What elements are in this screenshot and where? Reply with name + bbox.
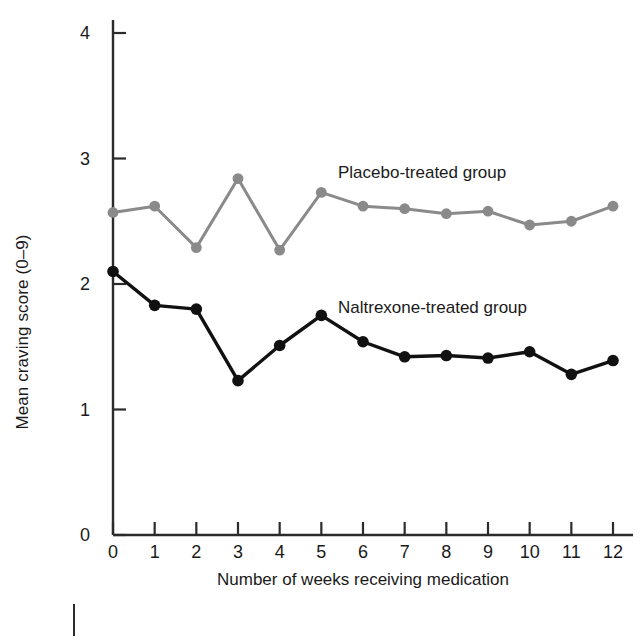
x-tick-label: 9 <box>471 543 505 561</box>
data-point <box>149 201 160 212</box>
data-point <box>232 375 244 387</box>
x-tick-label: 3 <box>221 543 255 561</box>
data-point <box>483 206 494 217</box>
y-axis-ticks <box>113 33 126 535</box>
x-tick-label: 5 <box>304 543 338 561</box>
x-tick-label: 1 <box>138 543 172 561</box>
data-point <box>357 336 369 348</box>
data-point <box>107 266 119 278</box>
data-point <box>441 350 453 362</box>
y-tick-label: 0 <box>62 526 90 544</box>
annotation-placebo-treated-group: Placebo-treated group <box>338 163 506 183</box>
data-point <box>191 303 203 315</box>
series-placebo-treated-group <box>108 173 619 255</box>
data-point <box>399 203 410 214</box>
data-point <box>607 355 619 367</box>
x-tick-label: 6 <box>346 543 380 561</box>
x-tick-label: 11 <box>554 543 588 561</box>
y-tick-label: 3 <box>62 150 90 168</box>
x-tick-label: 0 <box>96 543 130 561</box>
data-point <box>524 220 535 231</box>
series-naltrexone-treated-group <box>107 266 619 387</box>
annotation-naltrexone-treated-group: Naltrexone-treated group <box>338 298 527 318</box>
page-corner-mark <box>73 604 75 636</box>
data-point <box>316 187 327 198</box>
data-point <box>108 207 119 218</box>
x-tick-label: 7 <box>388 543 422 561</box>
x-axis-ticks <box>113 522 613 535</box>
data-point <box>274 340 286 352</box>
y-axis-title: Mean craving score (0–9) <box>13 217 33 447</box>
data-point <box>358 201 369 212</box>
data-point <box>608 201 619 212</box>
data-point <box>233 173 244 184</box>
x-tick-label: 2 <box>179 543 213 561</box>
data-point <box>191 242 202 253</box>
data-point <box>524 346 536 358</box>
chart-figure: Mean craving score (0–9) Number of weeks… <box>0 0 641 640</box>
data-point <box>149 300 161 312</box>
y-tick-label: 4 <box>62 24 90 42</box>
x-axis-title: Number of weeks receiving medication <box>113 570 613 590</box>
data-point <box>566 369 578 381</box>
data-point <box>482 352 494 364</box>
data-point <box>566 216 577 227</box>
x-tick-label: 4 <box>263 543 297 561</box>
x-tick-label: 8 <box>429 543 463 561</box>
y-tick-label: 2 <box>62 275 90 293</box>
data-point <box>274 245 285 256</box>
x-tick-label: 12 <box>596 543 630 561</box>
data-point <box>399 351 411 363</box>
x-tick-label: 10 <box>513 543 547 561</box>
data-point <box>316 310 328 322</box>
data-point <box>441 208 452 219</box>
y-tick-label: 1 <box>62 401 90 419</box>
